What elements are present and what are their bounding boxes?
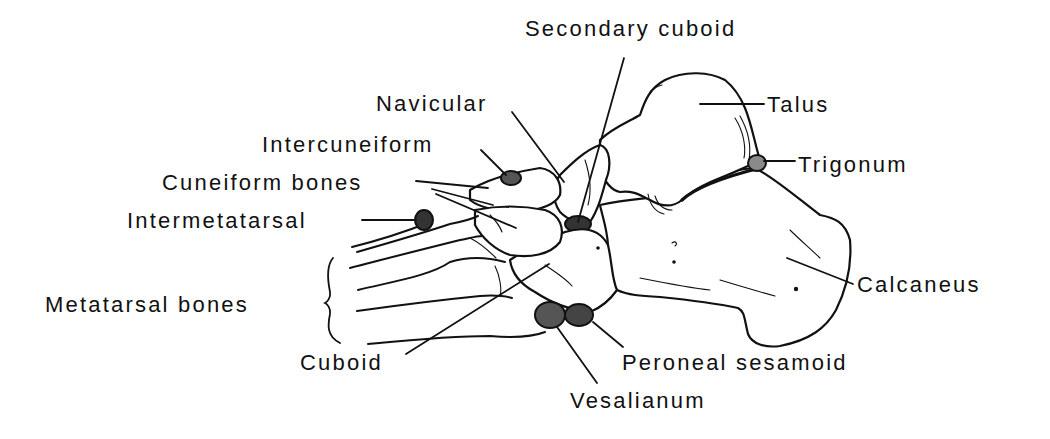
label-trigonum: Trigonum: [798, 152, 908, 177]
label-navicular: Navicular: [376, 91, 488, 116]
foot-bones-diagram: Secondary cuboid Navicular Talus Trigonu…: [0, 0, 1050, 439]
label-metatarsal-bones: Metatarsal bones: [45, 292, 249, 317]
leader-cuneiform-1: [416, 181, 488, 188]
intermetatarsal-ossicle: [415, 210, 433, 230]
vesalianum-ossicle: [535, 302, 565, 328]
cuneiform-bone-2: [475, 207, 562, 256]
trigonum-ossicle: [748, 155, 766, 171]
metatarsal-brace: [325, 258, 340, 343]
leader-vesalianum: [557, 327, 597, 383]
label-intermetatarsal: Intermetatarsal: [127, 208, 307, 233]
leader-peroneal-sesamoid: [593, 322, 623, 347]
label-peroneal-sesamoid: Peroneal sesamoid: [622, 350, 848, 375]
leader-intercuneiform: [481, 150, 506, 175]
label-vesalianum: Vesalianum: [570, 388, 706, 413]
label-intercuneiform: Intercuneiform: [262, 132, 433, 157]
peroneal-sesamoid-ossicle: [565, 304, 593, 326]
leader-cuboid: [406, 264, 549, 354]
label-cuneiform-bones: Cuneiform bones: [162, 170, 363, 195]
label-talus: Talus: [767, 92, 829, 117]
label-cuboid: Cuboid: [300, 350, 383, 375]
label-calcaneus: Calcaneus: [857, 272, 981, 297]
label-secondary-cuboid: Secondary cuboid: [525, 16, 736, 41]
